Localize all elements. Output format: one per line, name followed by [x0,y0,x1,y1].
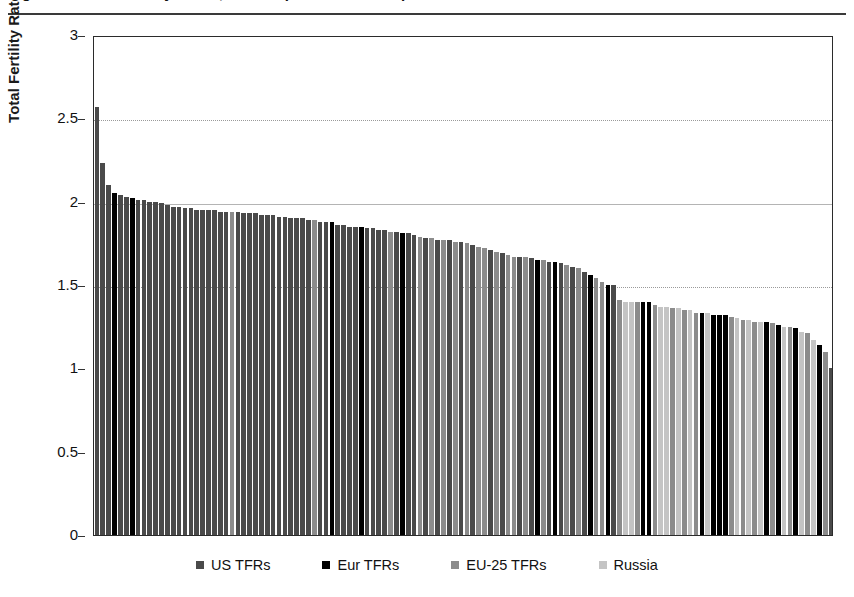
bar [817,345,822,535]
bar [136,200,141,535]
bar [177,207,182,535]
bar [670,308,675,535]
bar [112,193,117,535]
bar [793,328,798,535]
bar [382,230,387,535]
y-tick-mark [78,536,85,537]
bar [441,240,446,535]
bar [353,227,358,535]
bar [124,197,129,535]
bar [500,253,505,535]
bar [559,263,564,535]
bar [341,225,346,535]
bar [682,310,687,535]
bar [400,233,405,535]
y-tick-mark [78,36,85,37]
figure-title-strip: Figure 2. Total Fertility Rates, US comp… [0,0,854,14]
bar [230,212,235,535]
y-tick-mark [78,453,85,454]
bar [147,202,152,535]
bar [288,218,293,535]
y-tick-label: 1 [38,360,78,375]
bar [224,212,229,535]
bar [523,257,528,535]
bar [306,220,311,535]
bar [535,260,540,535]
y-tick-label: 2 [38,194,78,209]
bar [470,245,475,535]
bar [664,307,669,535]
bar [735,318,740,535]
bar [324,222,329,535]
bar [705,313,710,535]
bar [506,255,511,535]
y-tick-label: 2.5 [38,110,78,125]
bar [517,257,522,535]
bar [688,310,693,535]
bar [165,205,170,535]
bar [206,210,211,535]
bar [330,222,335,535]
bar [159,203,164,535]
bar [130,198,135,535]
bar [717,315,722,535]
legend-item[interactable]: Eur TFRs [322,557,399,573]
bar [658,307,663,535]
bar [488,250,493,535]
bar [200,210,205,535]
legend-label: US TFRs [211,557,270,573]
legend-swatch-icon [599,561,607,569]
bar [371,228,376,535]
chart-figure: Total Fertility Rate 00.511.522.53 US TF… [0,18,854,597]
bar [318,222,323,535]
bar [564,265,569,535]
bar [764,322,769,535]
legend-item[interactable]: US TFRs [196,557,270,573]
y-tick-label: 0.5 [38,444,78,459]
bar [782,327,787,535]
y-tick-mark [78,286,85,287]
bar [294,218,299,535]
bar [541,260,546,535]
bar [635,302,640,535]
legend-swatch-icon [451,561,459,569]
bar [529,258,534,535]
bar [253,213,258,535]
figure-title: Figure 2. Total Fertility Rates, US comp… [8,0,505,1]
bar [459,242,464,535]
bar [746,320,751,535]
chart-legend: US TFRsEur TFRsEU-25 TFRsRussia [0,550,854,580]
legend-item[interactable]: Russia [599,557,658,573]
bar [617,300,622,535]
bar [723,315,728,535]
bar [582,272,587,535]
bar [729,317,734,535]
bar [823,352,828,535]
bar [106,185,111,535]
y-tick-label: 1.5 [38,277,78,292]
bar [265,215,270,535]
bar [347,227,352,535]
title-divider [8,13,846,15]
bar [142,200,147,535]
y-axis-tick-labels: 00.511.522.53 [32,18,78,558]
bar [312,220,317,535]
bar [788,327,793,535]
bar [300,218,305,535]
bar [553,262,558,535]
bar [512,257,517,535]
bar [805,333,810,535]
bar [570,267,575,535]
bar [271,215,276,535]
bar [95,107,100,535]
bar [606,285,611,535]
bar [212,210,217,535]
bar [406,233,411,535]
bar [153,202,158,535]
plot-area [93,36,833,536]
bar [183,208,188,535]
legend-item[interactable]: EU-25 TFRs [451,557,546,573]
bar [758,322,763,535]
bar [429,238,434,535]
bar [641,302,646,535]
